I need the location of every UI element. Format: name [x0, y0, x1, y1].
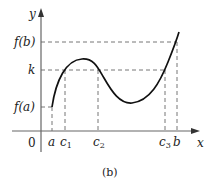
origin-label: 0: [28, 136, 36, 150]
fa-label: f(a): [13, 100, 35, 114]
b-label: b: [173, 135, 181, 149]
x-axis-label: x: [197, 136, 204, 150]
figure-caption: (b): [102, 166, 118, 179]
c3-label: c3: [159, 135, 171, 150]
c1-label: c1: [60, 135, 72, 150]
y-axis-arrow-icon: [38, 8, 44, 17]
c2-label: c2: [93, 135, 105, 150]
x-axis-arrow-icon: [191, 128, 200, 134]
fb-label: f(b): [13, 35, 36, 49]
axes: [12, 12, 196, 152]
k-label: k: [28, 63, 35, 77]
function-diagram: y x 0 f(b) k f(a) a c1 c2 c3 b (b): [0, 0, 212, 188]
y-axis-label: y: [28, 7, 36, 21]
a-label: a: [48, 135, 55, 149]
